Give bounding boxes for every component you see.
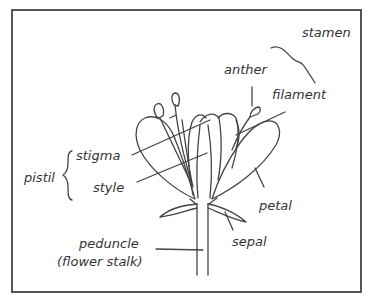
- petal-outer-right: [212, 121, 279, 199]
- sepal-right: [208, 204, 246, 222]
- pistil-brace: [63, 151, 72, 200]
- label-stigma: stigma: [76, 149, 120, 162]
- leader-filament: [236, 112, 285, 135]
- anther-1: [154, 104, 163, 118]
- flower-drawing: [0, 0, 369, 304]
- label-anther: anther: [224, 63, 267, 76]
- stamen-brace: [271, 47, 315, 83]
- anther-3: [250, 107, 260, 117]
- leader-peduncle: [156, 249, 203, 250]
- anther-2: [172, 93, 180, 106]
- label-filament: filament: [272, 88, 326, 101]
- label-sepal: sepal: [232, 235, 267, 248]
- sepal-left: [160, 204, 197, 217]
- label-petal: petal: [259, 199, 292, 212]
- leader-petal: [255, 168, 264, 187]
- label-pistil: pistil: [24, 171, 55, 184]
- label-style: style: [93, 181, 124, 194]
- stamen-bar: [170, 115, 176, 118]
- peduncle-stem: [197, 204, 208, 275]
- label-stamen: stamen: [302, 26, 351, 39]
- leader-sepal: [225, 212, 233, 230]
- label-peduncle-note: (flower stalk): [57, 255, 143, 268]
- pistil-body: [197, 125, 211, 198]
- label-peduncle: peduncle: [79, 237, 139, 250]
